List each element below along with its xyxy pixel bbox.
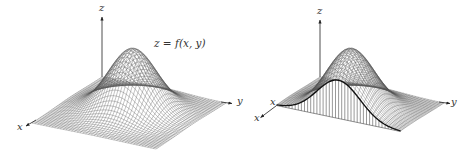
z-axis-label: z (317, 6, 322, 16)
function-annotation: z = f(x, y) (154, 38, 206, 49)
panel-surface: z x z = f(x, y) (0, 0, 235, 166)
cross-section-x-label: x (270, 97, 276, 107)
y-axis-label: y (451, 97, 457, 107)
cross-section-plot (235, 0, 470, 166)
x-axis (26, 120, 36, 126)
x-axis-label: x (254, 113, 260, 123)
x-axis (261, 106, 277, 118)
wireframe-mesh (32, 48, 226, 149)
surface-plot (0, 0, 235, 166)
left-y-axis-label: y (237, 96, 243, 106)
z-axis-label: z (99, 3, 104, 13)
x-axis-label: x (17, 122, 23, 132)
panel-cross-section: y z x x y (235, 0, 470, 166)
